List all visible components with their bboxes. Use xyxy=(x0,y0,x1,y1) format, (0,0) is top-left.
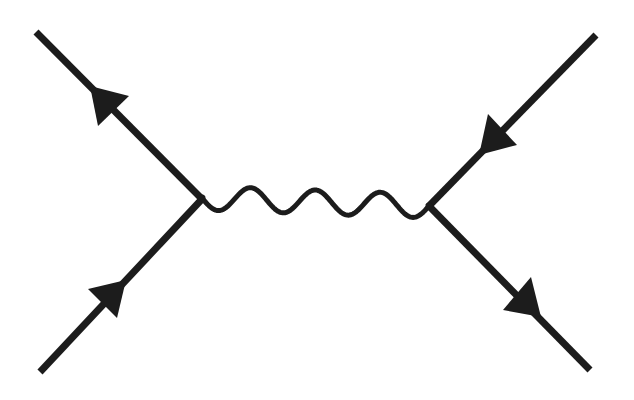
fermion-line-bottom-right xyxy=(428,205,590,370)
left-vertex xyxy=(199,195,206,202)
right-vertex xyxy=(426,203,433,210)
photon-propagator xyxy=(202,188,429,218)
fermion-line-top-left xyxy=(36,32,201,198)
feynman-diagram xyxy=(0,0,634,400)
fermion-line-top-right xyxy=(428,35,596,207)
